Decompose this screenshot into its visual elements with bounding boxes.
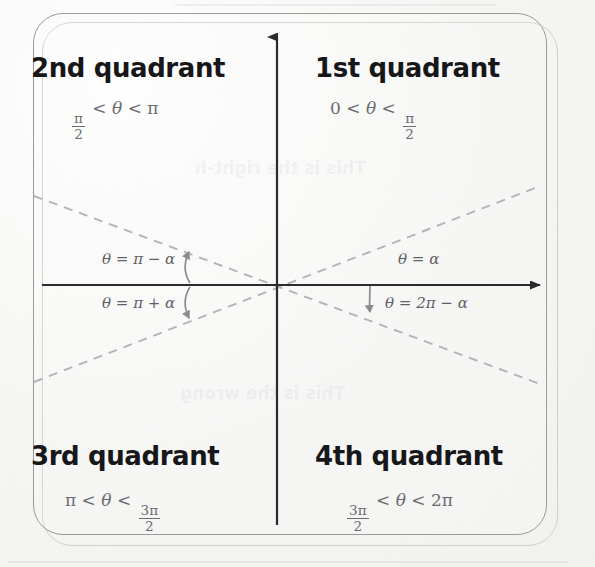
less-than-sign: < bbox=[82, 490, 96, 510]
theta-symbol: θ bbox=[396, 490, 406, 510]
less-than-sign: < bbox=[382, 98, 396, 118]
fraction-denominator: 2 bbox=[143, 519, 156, 534]
theta-symbol: θ bbox=[112, 98, 122, 118]
fraction-numerator: π bbox=[403, 112, 416, 128]
fraction-3pi-over-2-q3: 3π 2 bbox=[139, 504, 161, 534]
fraction-denominator: 2 bbox=[351, 519, 364, 534]
fraction-numerator: 3π bbox=[139, 504, 161, 520]
angle-label-two-pi-minus-alpha: θ = 2π − α bbox=[385, 296, 468, 311]
fraction-pi-over-2-q2: π 2 bbox=[72, 112, 85, 142]
quadrant-title-3rd: 3rd quadrant bbox=[31, 443, 219, 469]
quadrant-title-2nd: 2nd quadrant bbox=[31, 55, 225, 81]
angle-label-pi-minus-alpha: θ = π − α bbox=[102, 252, 175, 267]
fraction-numerator: 3π bbox=[347, 504, 369, 520]
theta-symbol: θ bbox=[101, 490, 111, 510]
angle-label-alpha: θ = α bbox=[398, 252, 439, 267]
annotation-arrow-left-down bbox=[185, 287, 190, 318]
less-than-sign: < bbox=[411, 490, 425, 510]
angle-label-pi-plus-alpha: θ = π + α bbox=[102, 296, 175, 311]
fraction-denominator: 2 bbox=[403, 127, 416, 142]
theta-symbol: θ bbox=[366, 98, 376, 118]
dashed-ray-nw-se bbox=[34, 196, 540, 384]
less-than-sign: < bbox=[346, 98, 360, 118]
less-than-sign: < bbox=[376, 490, 390, 510]
less-than-sign: < bbox=[128, 98, 142, 118]
fraction-3pi-over-2-q4: 3π 2 bbox=[347, 504, 369, 534]
less-than-sign: < bbox=[92, 98, 106, 118]
fraction-denominator: 2 bbox=[72, 127, 85, 142]
less-than-sign: < bbox=[117, 490, 131, 510]
quadrant-range-1st: 0 < θ < π 2 bbox=[330, 100, 418, 142]
annotation-arrow-left-up bbox=[185, 252, 190, 283]
quadrant-title-4th: 4th quadrant bbox=[315, 443, 503, 469]
two-pi-symbol: 2π bbox=[431, 490, 453, 510]
quadrant-range-4th: 3π 2 < θ < 2π bbox=[345, 492, 453, 534]
pi-symbol: π bbox=[147, 98, 158, 118]
zero-symbol: 0 bbox=[330, 98, 341, 118]
quadrant-range-3rd: π < θ < 3π 2 bbox=[65, 492, 162, 534]
quadrant-range-2nd: π 2 < θ < π bbox=[70, 100, 159, 142]
fraction-numerator: π bbox=[72, 112, 85, 128]
quadrant-title-1st: 1st quadrant bbox=[315, 55, 500, 81]
pi-symbol: π bbox=[65, 490, 76, 510]
fraction-pi-over-2-q1: π 2 bbox=[403, 112, 416, 142]
coordinate-diagram bbox=[0, 0, 595, 567]
